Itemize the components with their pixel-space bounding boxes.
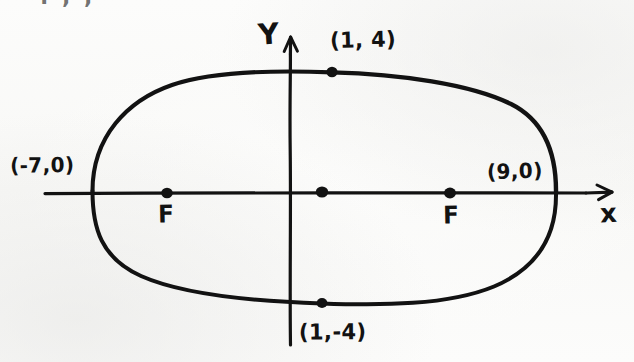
label-left-vertex: (-7,0) — [10, 154, 75, 176]
label-focus-right: F — [443, 203, 460, 228]
top-vertex-point — [326, 67, 337, 77]
y-axis-arrowhead — [284, 37, 297, 54]
center-point — [316, 186, 328, 197]
focus-right-point — [444, 188, 456, 199]
label-bottom-vertex: (1,-4) — [299, 321, 367, 343]
figure-canvas: . , , — [0, 0, 634, 362]
label-top-vertex: (1, 4) — [330, 29, 397, 53]
x-axis — [45, 185, 612, 200]
label-focus-left: F — [158, 202, 175, 227]
y-axis — [284, 37, 297, 345]
label-right-vertex: (9,0) — [487, 160, 543, 183]
focus-left-point — [161, 188, 173, 198]
marked-points — [161, 67, 456, 308]
label-axis-y: Y — [257, 19, 280, 49]
label-axis-x: x — [599, 200, 618, 227]
bottom-vertex-point — [317, 298, 328, 308]
